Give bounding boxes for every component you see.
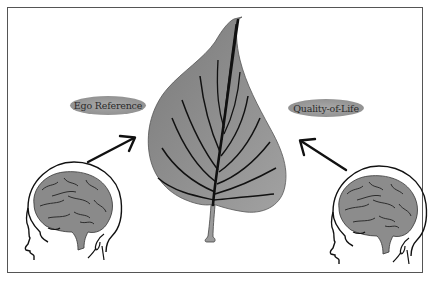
ego-reference-label: Ego Reference: [70, 96, 146, 115]
leaf-icon: [148, 17, 286, 242]
arrow-up-left-icon: [300, 139, 346, 170]
arrow-up-right-icon: [88, 136, 135, 162]
quality-of-life-label: Quality-of-Life: [288, 99, 364, 117]
figure-canvas: [0, 0, 430, 281]
head-with-brain-icon: [330, 166, 426, 264]
head-with-brain-icon: [25, 162, 121, 260]
